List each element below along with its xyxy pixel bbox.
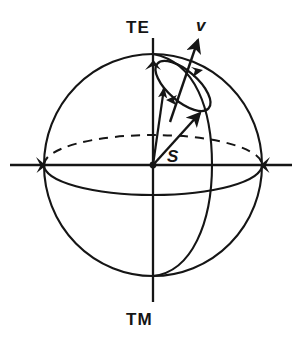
poincare-sphere-figure: TE TM S v <box>0 0 299 342</box>
label-v-vector: v <box>196 16 207 35</box>
label-s-vector: S <box>167 147 179 166</box>
label-te: TE <box>126 18 150 37</box>
poincare-sphere-canvas: TE TM S v <box>0 0 299 342</box>
label-tm: TM <box>126 310 153 329</box>
